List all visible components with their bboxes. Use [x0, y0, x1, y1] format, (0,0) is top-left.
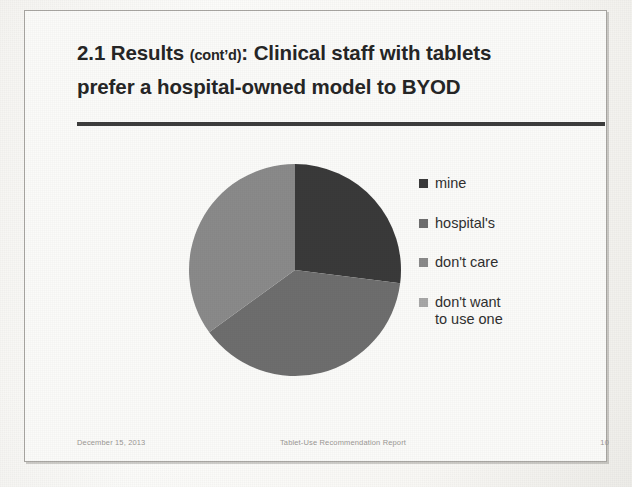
legend-label-dont-care: don't care [435, 254, 498, 272]
title-prefix: 2.1 Results [77, 41, 190, 64]
title-line-1: 2.1 Results (cont’d): Clinical staff wit… [77, 37, 609, 71]
slide-footer: December 15, 2013 Tablet-Use Recommendat… [77, 435, 609, 449]
legend-label-dont-want: don't want to use one [435, 294, 503, 329]
legend-label-mine: mine [435, 175, 466, 193]
legend-item-dont-want-to-use-one[interactable]: don't want to use one [419, 294, 594, 329]
pie-chart-svg [188, 163, 402, 377]
title-line-2: prefer a hospital-owned model to BYOD [77, 71, 609, 102]
pie-chart [188, 163, 402, 377]
legend-swatch-icon-mine [419, 179, 428, 188]
legend-item-mine[interactable]: mine [419, 175, 594, 193]
legend-swatch-icon-dont-want [419, 298, 428, 307]
title-divider-rule [77, 122, 605, 126]
footer-document-title: Tablet-Use Recommendation Report [77, 438, 609, 447]
title-contd: (cont’d) [190, 47, 242, 63]
legend-item-hospitals[interactable]: hospital's [419, 215, 594, 233]
pie-slice-mine[interactable] [295, 164, 401, 283]
legend-swatch-icon-dont-care [419, 258, 428, 267]
legend-label-hospitals: hospital's [435, 215, 495, 233]
slide-page: 2.1 Results (cont’d): Clinical staff wit… [0, 0, 632, 487]
legend-swatch-icon-hospitals [419, 219, 428, 228]
legend-item-dont-care[interactable]: don't care [419, 254, 594, 272]
title-suffix: : Clinical staff with tablets [241, 41, 491, 64]
pie-slice-group [189, 164, 401, 376]
chart-legend: mine hospital's don't care don't want to… [419, 175, 594, 351]
chart-area: mine hospital's don't care don't want to… [77, 141, 605, 416]
page-title: 2.1 Results (cont’d): Clinical staff wit… [77, 37, 609, 102]
slide-frame: 2.1 Results (cont’d): Clinical staff wit… [24, 10, 607, 462]
